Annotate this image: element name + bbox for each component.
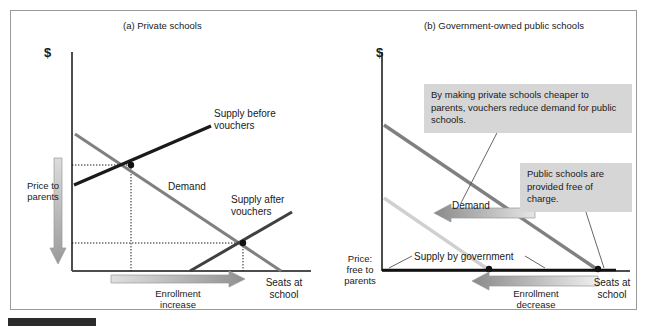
panel-a-supply-before-curve [74, 126, 211, 185]
panel-b-supply-government-label: Supply by government [414, 251, 514, 263]
callout-demand-shift: By making private schools cheaper to par… [424, 84, 632, 133]
panel-a-supply-before-label: Supply beforevouchers [214, 108, 276, 131]
panel-a-y-axis-label: $ [44, 45, 51, 60]
panel-a-enrollment-shift-label: Enrollmentincrease [123, 288, 233, 310]
panel-a-enrollment-arrow [111, 271, 245, 287]
panel-a-demand-label: Demand [168, 181, 206, 193]
panel-b-demand-label: Demand [452, 200, 490, 212]
panel-a-title: (a) Private schools [123, 20, 202, 31]
panel-b-title: (b) Government-owned public schools [424, 20, 584, 31]
figure-root: (a) Private schools (b) Government-owned… [0, 0, 650, 331]
panel-b-price-free-label: Price:free toparents [338, 253, 382, 286]
panel-a-price-arrow [50, 158, 66, 264]
panel-b-enrollment-shift-label: Enrollmentdecrease [484, 288, 588, 310]
panel-a-equilibrium-dots [128, 162, 246, 246]
panel-a-price-to-parents-label: Price toparents [14, 180, 72, 202]
panel-a-axes [72, 52, 311, 271]
panel-a-x-axis-label: Seats atschool [257, 277, 311, 300]
panel-b-y-axis-label: $ [376, 45, 383, 60]
panel-a-supply-after-label: Supply aftervouchers [231, 194, 284, 217]
panel-b-x-axis-label: Seats atschool [586, 277, 638, 300]
callout-free-of-charge: Public schools are provided free of char… [520, 163, 632, 212]
figure-bottom-rule [8, 318, 96, 326]
